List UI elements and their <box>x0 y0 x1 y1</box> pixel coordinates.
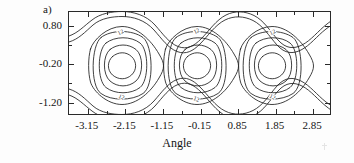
ytick-right-minor <box>327 83 330 84</box>
ytick-label: -0.20 <box>39 57 62 69</box>
xtick-major <box>163 109 164 114</box>
xtick-top-minor <box>219 12 220 15</box>
xtick-top-major <box>88 12 89 17</box>
xtick-top-major <box>276 12 277 17</box>
xtick-top-major <box>163 12 164 17</box>
xtick-top-minor <box>294 12 295 15</box>
xtick-minor <box>182 111 183 114</box>
xtick-minor <box>257 111 258 114</box>
xtick-major <box>276 109 277 114</box>
xtick-label: -0.15 <box>188 119 211 131</box>
ytick-right-minor <box>327 45 330 46</box>
xtick-label: 0.85 <box>227 119 246 131</box>
xtick-top-minor <box>107 12 108 15</box>
xtick-top-minor <box>144 12 145 15</box>
ytick-right-major <box>325 64 330 65</box>
xtick-major <box>238 109 239 114</box>
xtick-label: -3.15 <box>75 119 98 131</box>
xtick-label: 2.85 <box>303 119 322 131</box>
xtick-label: -1.15 <box>150 119 173 131</box>
plot-frame: 12 12 12 12 12 12 <box>68 11 331 115</box>
ytick-right-major <box>325 26 330 27</box>
xtick-minor <box>107 111 108 114</box>
ytick-major <box>69 103 74 104</box>
ytick-major <box>69 26 74 27</box>
xtick-minor <box>294 111 295 114</box>
xtick-label: -2.15 <box>113 119 136 131</box>
ytick-label: -1.20 <box>39 96 62 108</box>
xtick-top-major <box>201 12 202 17</box>
xtick-minor <box>219 111 220 114</box>
xtick-major <box>201 109 202 114</box>
xtick-major <box>313 109 314 114</box>
ytick-major <box>69 64 74 65</box>
xtick-top-major <box>125 12 126 17</box>
panel-label: a) <box>43 3 52 15</box>
contour-figure: a) <box>0 0 354 163</box>
xtick-major <box>88 109 89 114</box>
xtick-top-minor <box>182 12 183 15</box>
xaxis-title: Angle <box>0 136 354 151</box>
ytick-minor <box>69 83 72 84</box>
xtick-major <box>125 109 126 114</box>
ytick-label: 0.80 <box>43 19 62 31</box>
ytick-minor <box>69 45 72 46</box>
xtick-top-minor <box>257 12 258 15</box>
ytick-right-major <box>325 103 330 104</box>
xtick-top-major <box>238 12 239 17</box>
xtick-top-major <box>313 12 314 17</box>
scan-artifact-speck <box>322 143 327 150</box>
xtick-label: 1.85 <box>265 119 284 131</box>
xtick-minor <box>144 111 145 114</box>
